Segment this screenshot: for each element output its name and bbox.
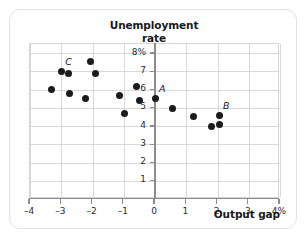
data-point (58, 68, 65, 75)
y-axis-tick-label: 7 (124, 65, 146, 75)
y-axis-tick (150, 107, 155, 108)
gridline-vertical (61, 44, 62, 197)
y-axis-tick (150, 180, 155, 181)
data-point (190, 113, 197, 120)
x-axis-tick-label: –2 (80, 206, 104, 216)
data-point (152, 95, 159, 102)
gridline-vertical (249, 44, 250, 197)
data-point-label: C (65, 56, 72, 67)
y-axis-tick-label: 8% (124, 47, 146, 57)
y-axis-tick (150, 162, 155, 163)
data-point (169, 105, 176, 112)
gridline-vertical (280, 44, 281, 197)
chart-title: Unemployment rate (10, 19, 298, 44)
gridline-vertical (30, 44, 31, 197)
data-point (48, 86, 55, 93)
data-point (208, 123, 215, 130)
y-axis-line (154, 43, 155, 199)
x-axis-tick-label: –1 (111, 206, 135, 216)
x-axis-tick (185, 199, 186, 204)
data-point (65, 70, 72, 77)
x-axis-tick (122, 199, 123, 204)
y-axis-tick-label: 4 (124, 120, 146, 130)
x-axis-tick-label: 0 (142, 206, 166, 216)
y-axis-tick-label: 2 (124, 156, 146, 166)
y-axis-tick-label: 3 (124, 138, 146, 148)
x-axis-tick (247, 199, 248, 204)
data-point (216, 112, 223, 119)
data-point (116, 92, 123, 99)
x-axis-tick-label: –4 (17, 206, 41, 216)
data-point-label: B (223, 100, 230, 111)
data-point (82, 95, 89, 102)
x-axis-tick (216, 199, 217, 204)
y-axis-tick (150, 125, 155, 126)
y-axis-tick (150, 89, 155, 90)
y-axis-tick (150, 144, 155, 145)
chart-card: Unemployment rate CAB –4–3–2–101234% 123… (9, 9, 297, 229)
y-axis-tick-label: 6 (124, 83, 146, 93)
chart-title-line-1: Unemployment (10, 19, 298, 32)
x-axis-tick (278, 199, 279, 204)
x-axis-tick (28, 199, 29, 204)
gridline-vertical (93, 44, 94, 197)
gridline-vertical (186, 44, 187, 197)
x-axis-tick (60, 199, 61, 204)
x-axis-tick-label: 1 (173, 206, 197, 216)
x-axis-tick (91, 199, 92, 204)
data-point (66, 90, 73, 97)
y-axis-tick-label: 1 (124, 174, 146, 184)
data-point (92, 70, 99, 77)
x-axis-tick (153, 199, 154, 204)
data-point (216, 121, 223, 128)
y-axis-tick-label: 5 (124, 101, 146, 111)
data-point-label: A (159, 83, 166, 94)
x-axis-title: Output gap (214, 208, 280, 220)
x-axis-tick-label: –3 (48, 206, 72, 216)
plot-area: CAB (29, 43, 279, 198)
y-axis-tick (150, 52, 155, 53)
y-axis-tick (150, 71, 155, 72)
